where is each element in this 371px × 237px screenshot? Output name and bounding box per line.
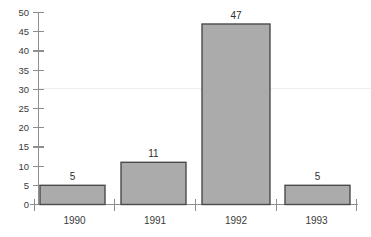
y-tick-label-10: 10	[18, 161, 29, 172]
bar-1990[interactable]	[40, 185, 105, 204]
y-tick-label-30: 30	[18, 84, 29, 95]
bar-1992[interactable]	[202, 24, 270, 205]
y-tick-label-40: 40	[18, 45, 29, 56]
bar-value-label-1990: 5	[70, 171, 76, 182]
y-tick-label-35: 35	[18, 65, 29, 76]
bar-value-label-1992: 47	[230, 10, 242, 21]
bar-series	[40, 24, 350, 205]
y-tick-label-5: 5	[24, 180, 29, 191]
y-tick-label-20: 20	[18, 122, 29, 133]
chart-canvas: 0 5 10 15 20 25 30 35 40 45 50 5 11 47 5	[0, 0, 371, 237]
y-tick-label-25: 25	[18, 103, 29, 114]
y-tick-label-15: 15	[18, 141, 29, 152]
bar-value-label-1993: 5	[315, 171, 321, 182]
x-tick-label-1990: 1990	[63, 215, 86, 226]
bar-1993[interactable]	[285, 185, 350, 204]
y-tick-label-0: 0	[24, 199, 29, 210]
bar-chart: 0 5 10 15 20 25 30 35 40 45 50 5 11 47 5	[0, 0, 371, 237]
x-tick-label-1991: 1991	[144, 215, 167, 226]
y-tick-label-50: 50	[18, 7, 29, 18]
x-tick-label-1992: 1992	[225, 215, 248, 226]
y-tick-label-45: 45	[18, 26, 29, 37]
bar-1991[interactable]	[121, 162, 186, 204]
x-tick-label-1993: 1993	[305, 215, 328, 226]
bar-value-label-1991: 11	[148, 148, 159, 159]
